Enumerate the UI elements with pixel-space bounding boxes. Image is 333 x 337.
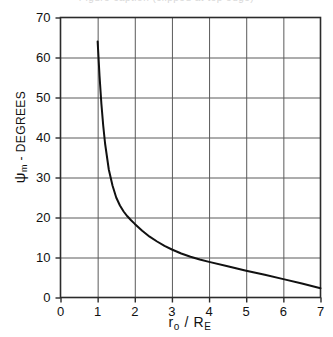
x-axis-subscript-e: E (204, 321, 211, 332)
y-tick-label: 0 (17, 291, 51, 304)
data-curve (98, 42, 321, 289)
y-tick-label: 20 (17, 211, 51, 224)
y-axis-units: - DEGREES (14, 91, 28, 164)
y-axis-subscript: m (19, 164, 29, 172)
y-tick-label: 70 (17, 11, 51, 24)
y-tick-label: 10 (17, 251, 51, 264)
y-axis-symbol: ψ (11, 172, 28, 183)
y-tick-label: 60 (17, 51, 51, 64)
axis-ticks (56, 18, 322, 303)
x-axis-title: ro / RE (60, 314, 320, 332)
x-axis-divider: / R (180, 314, 204, 330)
figure-container: 010203040506070 01234567 ψm - DEGREES ro… (0, 0, 333, 337)
y-axis-title: ψm - DEGREES (11, 72, 29, 202)
